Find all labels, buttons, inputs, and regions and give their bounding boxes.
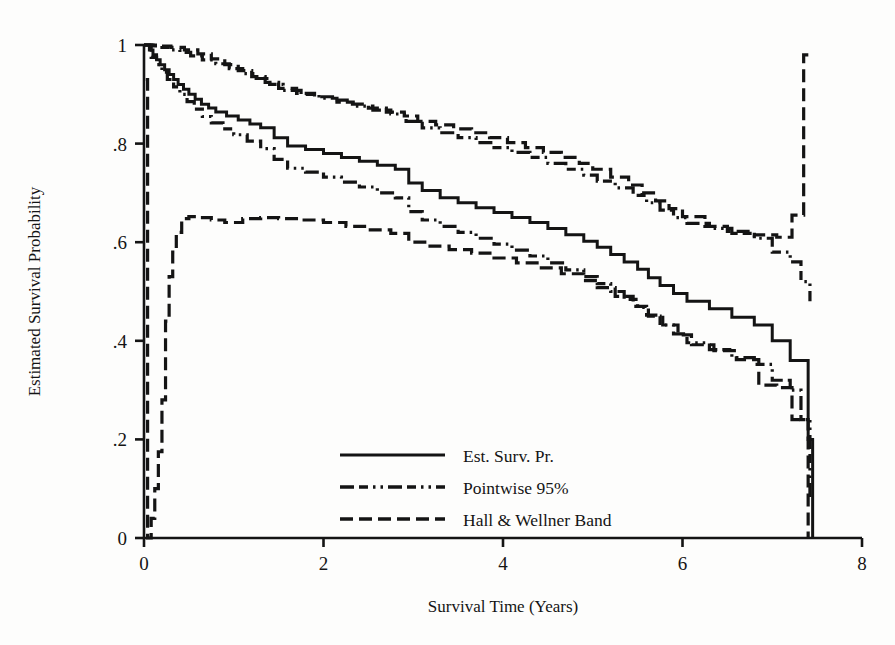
x-tick-label-2: 4 — [498, 553, 508, 574]
legend-label-1: Pointwise 95% — [463, 478, 569, 498]
y-tick-label-3: .6 — [113, 232, 127, 253]
x-axis-title: Survival Time (Years) — [428, 597, 578, 616]
series-line-2 — [144, 45, 810, 499]
x-tick-label-1: 2 — [319, 553, 329, 574]
y-tick-label-5: 1 — [118, 35, 128, 56]
x-tick-label-3: 6 — [678, 553, 688, 574]
x-tick-label-4: 8 — [857, 553, 867, 574]
survival-chart-figure: 024680.2.4.6.81Survival Time (Years)Esti… — [0, 0, 895, 645]
survival-plot-canvas: 024680.2.4.6.81Survival Time (Years)Esti… — [0, 0, 895, 645]
y-axis-title: Estimated Survival Probability — [25, 186, 44, 396]
x-tick-label-0: 0 — [139, 553, 149, 574]
y-tick-label-1: .2 — [113, 429, 127, 450]
y-tick-label-4: .8 — [113, 134, 127, 155]
legend-label-0: Est. Surv. Pr. — [463, 446, 554, 466]
legend-label-2: Hall & Wellner Band — [463, 510, 612, 530]
y-tick-label-0: 0 — [118, 528, 128, 549]
y-tick-label-2: .4 — [113, 331, 128, 352]
series-line-1 — [144, 45, 810, 301]
